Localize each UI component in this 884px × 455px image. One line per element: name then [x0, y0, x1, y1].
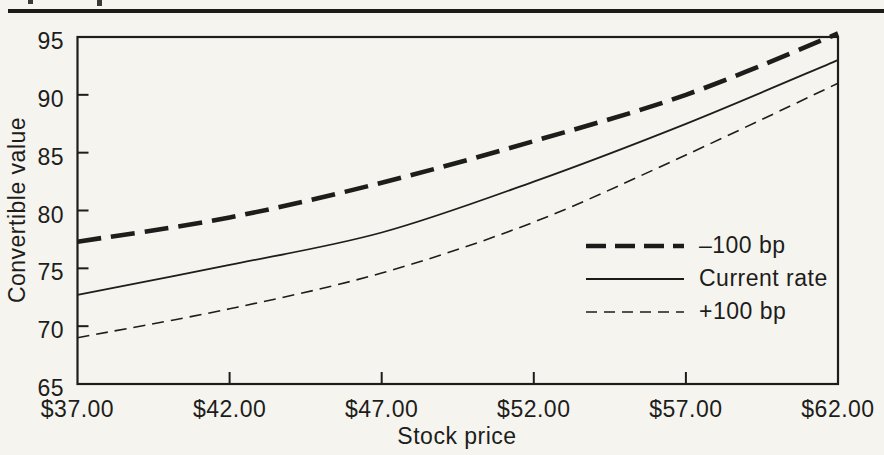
legend-label: Current rate — [699, 265, 828, 292]
legend-label: –100 bp — [699, 232, 786, 259]
x-tick-label: $37.00 — [23, 396, 133, 422]
legend-item-plus-100bp: +100 bp — [586, 295, 828, 328]
x-tick-label: $47.00 — [327, 396, 437, 422]
x-tick-label: $62.00 — [783, 396, 884, 422]
y-tick-label: 90 — [12, 86, 64, 112]
series-line--100-bp — [78, 34, 839, 242]
y-tick-label: 80 — [12, 202, 64, 228]
legend-item-minus-100bp: –100 bp — [586, 229, 828, 262]
thick-dashed-line-sample — [586, 241, 684, 251]
legend-label: +100 bp — [699, 298, 786, 325]
plot-area — [0, 0, 884, 455]
y-tick-label: 85 — [12, 144, 64, 170]
convertible-value-chart: Convertible value Stock price 9590858075… — [0, 0, 884, 455]
x-tick-label: $52.00 — [479, 396, 589, 422]
solid-line-sample — [586, 274, 684, 284]
scanned-page: Convertible value Stock price 9590858075… — [0, 0, 884, 455]
legend-item-current-rate: Current rate — [586, 262, 828, 295]
x-tick-label: $57.00 — [631, 396, 741, 422]
x-axis-title: Stock price — [337, 423, 577, 450]
chart-legend: –100 bp Current rate +100 bp — [586, 229, 828, 328]
y-tick-label: 95 — [12, 28, 64, 54]
y-tick-label: 75 — [12, 259, 64, 285]
thin-dashed-line-sample — [586, 307, 684, 317]
x-tick-label: $42.00 — [175, 396, 285, 422]
y-tick-label: 70 — [12, 317, 64, 343]
plot-frame — [78, 37, 839, 384]
